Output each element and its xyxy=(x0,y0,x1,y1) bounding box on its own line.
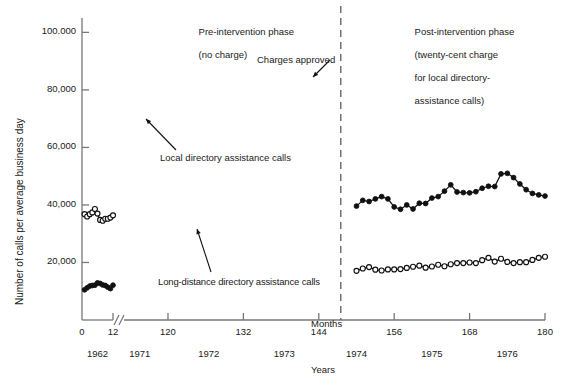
local-series-marker-post xyxy=(392,267,397,272)
local-series-marker-post xyxy=(442,264,447,269)
local-series-marker-post xyxy=(499,256,504,261)
longdistance-series-marker-post xyxy=(392,205,397,210)
year-label: 1971 xyxy=(116,348,164,359)
local-series-marker-post xyxy=(373,267,378,272)
longdistance-series-annotation: Long-distance directory assistance calls xyxy=(158,276,320,288)
local-series-marker-post xyxy=(411,264,416,269)
y-tick-label: 100.000 xyxy=(22,25,76,36)
x-tick-label: 144 xyxy=(299,326,339,337)
longdistance-series-marker-post xyxy=(417,201,422,206)
local-series-marker-post xyxy=(473,261,478,266)
y-tick-label: 60,000 xyxy=(22,140,76,151)
longdistance-series-marker-post xyxy=(354,204,359,209)
local-series-marker-post xyxy=(467,260,472,265)
longdistance-series-marker-post xyxy=(480,186,485,191)
year-label: 1976 xyxy=(483,348,531,359)
local-series-marker-post xyxy=(524,260,529,265)
longdistance-series-marker-post xyxy=(473,189,478,194)
local-series-marker-post xyxy=(379,268,384,273)
local-series-marker-post xyxy=(543,254,548,259)
longdistance-series-marker-post xyxy=(492,184,497,189)
longdistance-series-marker-post xyxy=(430,196,435,201)
local-series-marker-post xyxy=(505,259,510,264)
longdistance-series-marker-post xyxy=(517,182,522,187)
local-series-marker-post xyxy=(436,262,441,267)
longdistance-series-marker-post xyxy=(423,201,428,206)
longdistance-series-marker-post xyxy=(398,207,403,212)
local-series-marker-post xyxy=(385,267,390,272)
local-series-marker-post xyxy=(417,263,422,268)
longdistance-series-marker-post xyxy=(455,190,460,195)
year-label: 1962 xyxy=(74,348,122,359)
post-phase-line-3: for local directory- xyxy=(415,72,491,83)
longdistance-series-marker-post xyxy=(404,203,409,208)
local-series-marker-post xyxy=(511,261,516,266)
longdistance-series-marker-post xyxy=(411,207,416,212)
longdistance-series-marker-post xyxy=(486,184,491,189)
longdistance-series-leader xyxy=(197,229,211,272)
year-label: 1975 xyxy=(408,348,456,359)
longdistance-series-marker-post xyxy=(543,194,548,199)
longdistance-series-marker-post xyxy=(536,192,541,197)
local-series-marker-post xyxy=(530,257,535,262)
longdistance-series-marker-post xyxy=(524,187,529,192)
longdistance-series-marker-post xyxy=(530,191,535,196)
local-series-marker-post xyxy=(367,265,372,270)
longdistance-series-marker-post xyxy=(386,197,391,202)
local-series-marker-post xyxy=(404,265,409,270)
longdistance-series-marker-post xyxy=(505,171,510,176)
post-phase-line-1: Post-intervention phase xyxy=(415,26,515,37)
local-series-annotation: Local directory assistance calls xyxy=(160,152,291,164)
year-label: 1973 xyxy=(260,348,308,359)
longdistance-series-leader-head xyxy=(196,229,200,234)
longdistance-series-marker-post xyxy=(379,194,384,199)
longdistance-series-marker-post xyxy=(461,190,466,195)
local-series-marker-post xyxy=(486,255,491,260)
longdistance-series-marker-post xyxy=(360,198,365,203)
pre-phase-line-1: Pre-intervention phase xyxy=(199,26,295,37)
chart-figure: Number of calls per average business day… xyxy=(0,0,561,380)
local-series-marker-post xyxy=(536,255,541,260)
local-series-marker-post xyxy=(455,261,460,266)
x-tick-label: 156 xyxy=(374,326,414,337)
x-tick-label: 12 xyxy=(93,326,133,337)
local-series-marker-post xyxy=(492,259,497,264)
local-series-leader xyxy=(146,119,176,150)
pre-phase-line-2: (no charge) xyxy=(199,49,248,60)
longdistance-series-marker-post xyxy=(511,175,516,180)
y-tick-label: 80,000 xyxy=(22,83,76,94)
post-phase-line-2: (twenty-cent charge xyxy=(415,49,498,60)
x-axis-years-label: Years xyxy=(311,364,335,376)
local-series-marker-post xyxy=(423,265,428,270)
x-tick-label: 180 xyxy=(525,326,561,337)
longdistance-series-marker-post xyxy=(367,199,372,204)
post-phase-line-4: assistance calls) xyxy=(415,95,485,106)
charges-approved-annotation: Charges approved xyxy=(257,54,335,66)
post-intervention-phase-label: Post-intervention phase (twenty-cent cha… xyxy=(404,14,514,118)
longdistance-series-marker-post xyxy=(448,182,453,187)
x-tick-label: 168 xyxy=(450,326,490,337)
local-series-marker-post xyxy=(448,262,453,267)
y-tick-label: 40,000 xyxy=(22,198,76,209)
longdistance-series-marker xyxy=(111,283,116,288)
axis-break-mark xyxy=(119,315,124,325)
y-tick-label: 20,000 xyxy=(22,255,76,266)
x-tick-label: 132 xyxy=(223,326,263,337)
local-series-marker-post xyxy=(398,267,403,272)
longdistance-series-marker-post xyxy=(373,197,378,202)
local-series-marker-post xyxy=(461,261,466,266)
axis-break-mark xyxy=(114,315,119,325)
local-series-marker-post xyxy=(517,260,522,265)
longdistance-series-line-post xyxy=(356,173,545,209)
longdistance-series-marker-post xyxy=(442,189,447,194)
longdistance-series-marker-post xyxy=(467,190,472,195)
local-series-marker-post xyxy=(429,264,434,269)
local-series-marker-post xyxy=(354,268,359,273)
local-series-marker-post xyxy=(480,258,485,263)
local-series-marker xyxy=(95,211,100,216)
longdistance-series-marker-post xyxy=(499,171,504,176)
local-series-marker xyxy=(111,213,116,218)
longdistance-series-marker-post xyxy=(436,194,441,199)
year-label: 1972 xyxy=(185,348,233,359)
local-series-marker-post xyxy=(360,266,365,271)
